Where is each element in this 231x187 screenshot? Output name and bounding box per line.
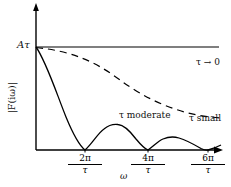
tick-numerator: 2π [68, 154, 102, 165]
y-axis-title: |F(iω)| [7, 68, 17, 128]
tick-numerator: 4π [131, 154, 165, 165]
fourier-magnitude-figure: Aτ |F(iω)| ω τ → 0 τ small τ moderate 2π… [0, 0, 231, 187]
tick-denominator: τ [191, 165, 225, 175]
annotation-tau-small: τ small [189, 114, 221, 123]
annotation-tau-moderate: τ moderate [119, 111, 171, 120]
x-axis [36, 147, 223, 154]
x-tick-label-6pi-over-tau: 6π τ [191, 154, 225, 176]
curve-tau-moderate [36, 47, 221, 150]
tick-denominator: τ [68, 165, 102, 175]
y-axis-peak-label: Aτ [17, 40, 30, 50]
annotation-tau-approaches-zero: τ → 0 [196, 58, 220, 67]
x-axis-title: ω [120, 172, 127, 181]
tick-denominator: τ [131, 165, 165, 175]
x-tick-label-2pi-over-tau: 2π τ [68, 154, 102, 176]
curve-tau-small [36, 48, 222, 119]
x-tick-label-4pi-over-tau: 4π τ [131, 154, 165, 176]
y-axis [33, 3, 39, 150]
tick-numerator: 6π [191, 154, 225, 165]
